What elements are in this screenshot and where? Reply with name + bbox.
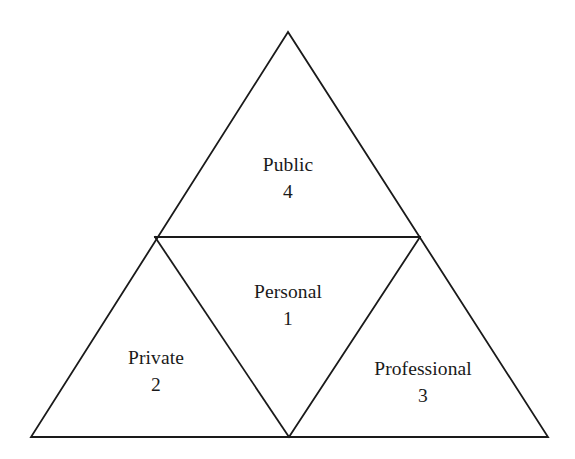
zone-private-name: Private [128,345,184,371]
zone-public-number: 4 [263,179,313,205]
zone-public-name: Public [263,152,313,178]
triangle-diagram-graphic [0,0,575,459]
diagram-background [0,0,575,459]
zone-label-private: Private 2 [128,345,184,398]
zone-label-professional: Professional 3 [374,356,472,409]
zone-label-public: Public 4 [263,152,313,205]
zone-personal-name: Personal [254,279,322,305]
zone-label-personal: Personal 1 [254,279,322,332]
zone-personal-number: 1 [254,306,322,332]
zone-private-number: 2 [128,372,184,398]
zone-professional-name: Professional [374,356,472,382]
zone-professional-number: 3 [374,383,472,409]
triangle-diagram: Public 4 Personal 1 Private 2 Profession… [0,0,575,459]
